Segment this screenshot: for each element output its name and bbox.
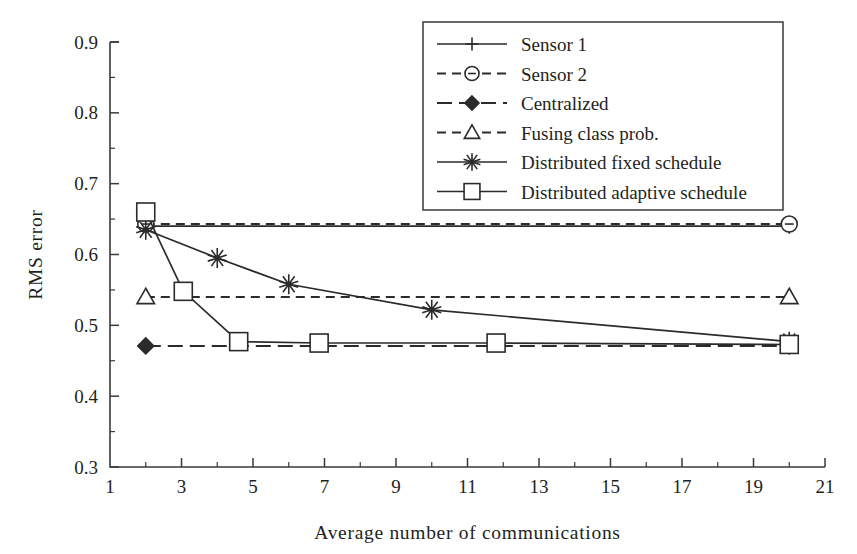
legend-label: Distributed adaptive schedule bbox=[521, 182, 747, 203]
square-marker bbox=[310, 334, 328, 352]
legend-label: Fusing class prob. bbox=[521, 123, 659, 144]
x-tick-label: 9 bbox=[391, 476, 401, 497]
series-path bbox=[146, 212, 790, 345]
series-sensor-2 bbox=[138, 216, 798, 232]
x-axis-title: Average number of communications bbox=[314, 522, 620, 543]
y-tick-label: 0.7 bbox=[74, 173, 98, 194]
x-tick-label: 15 bbox=[601, 476, 620, 497]
x-tick-label: 21 bbox=[816, 476, 835, 497]
y-tick-label: 0.8 bbox=[74, 102, 98, 123]
y-tick-label: 0.9 bbox=[74, 32, 98, 53]
asterisk-marker bbox=[279, 274, 298, 294]
square-marker bbox=[174, 282, 192, 300]
legend-label: Sensor 1 bbox=[521, 34, 587, 55]
y-tick-label: 0.3 bbox=[74, 457, 98, 478]
chart-legend[interactable]: Sensor 1Sensor 2CentralizedFusing class … bbox=[423, 22, 783, 210]
series-sensor-1 bbox=[138, 219, 797, 234]
triangle-marker bbox=[781, 288, 798, 303]
series-fusing-class-prob bbox=[137, 288, 798, 303]
triangle-marker bbox=[137, 288, 154, 303]
y-tick-label: 0.5 bbox=[74, 315, 98, 336]
legend-label: Sensor 2 bbox=[521, 64, 587, 85]
x-tick-label: 7 bbox=[320, 476, 330, 497]
square-marker bbox=[137, 203, 155, 221]
square-marker bbox=[230, 333, 248, 351]
y-tick-label: 0.6 bbox=[74, 244, 98, 265]
legend-label: Centralized bbox=[521, 93, 609, 114]
circle-marker bbox=[465, 66, 479, 80]
x-tick-label: 13 bbox=[530, 476, 549, 497]
y-axis-title: RMS error bbox=[25, 209, 46, 299]
series-path bbox=[146, 230, 790, 342]
data-series-layer bbox=[136, 203, 799, 354]
x-tick-label: 19 bbox=[744, 476, 763, 497]
square-marker bbox=[464, 184, 480, 200]
rms-error-line-chart: 0.30.40.50.60.70.80.913579111315171921Av… bbox=[0, 0, 857, 554]
square-marker bbox=[780, 335, 798, 353]
circle-marker bbox=[781, 216, 797, 232]
x-tick-label: 17 bbox=[673, 476, 692, 497]
chart-canvas: 0.30.40.50.60.70.80.913579111315171921Av… bbox=[0, 0, 857, 554]
x-tick-label: 11 bbox=[458, 476, 476, 497]
diamond-marker bbox=[138, 338, 154, 354]
y-tick-label: 0.4 bbox=[74, 386, 98, 407]
x-tick-label: 5 bbox=[248, 476, 258, 497]
square-marker bbox=[487, 334, 505, 352]
asterisk-marker bbox=[208, 248, 227, 268]
legend-label: Distributed fixed schedule bbox=[521, 152, 722, 173]
x-tick-label: 1 bbox=[105, 476, 115, 497]
x-tick-label: 3 bbox=[177, 476, 187, 497]
